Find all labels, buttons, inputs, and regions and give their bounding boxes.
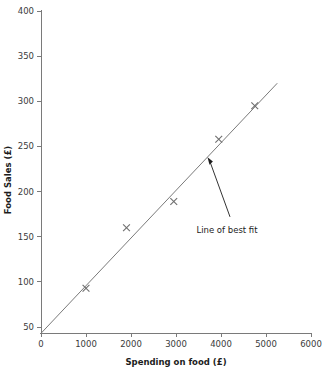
data-point-marker — [123, 224, 130, 231]
y-axis-tick-label: 350 — [18, 51, 34, 61]
x-axis-tick-label: 6000 — [300, 339, 322, 349]
annotation-leader-line — [210, 162, 230, 217]
trendline-path — [41, 83, 277, 333]
scatter-chart: 50100150200250300350400 0100020003000400… — [0, 0, 332, 372]
x-axis-tick-label: 3000 — [165, 339, 187, 349]
y-axis-tick-label: 150 — [18, 232, 34, 242]
x-axis-tick-label: 1000 — [75, 339, 97, 349]
data-point-marker — [215, 136, 222, 143]
data-point-marker — [251, 102, 258, 109]
x-axis-tick-label: 4000 — [210, 339, 232, 349]
y-axis-tick-label: 100 — [18, 277, 34, 287]
y-axis-title: Food Sales (£) — [3, 146, 13, 215]
y-axis-tick-label: 400 — [18, 6, 34, 16]
data-point-marker — [170, 198, 177, 205]
annotation-label: Line of best fit — [196, 225, 258, 235]
y-axis-tick-label: 50 — [23, 322, 34, 332]
line-of-best-fit — [41, 83, 277, 333]
y-axis-tick-label: 300 — [18, 96, 34, 106]
x-axis-tick-label: 0 — [38, 339, 43, 349]
annotation-arrowhead-icon — [208, 157, 213, 164]
annotation-line-of-best-fit: Line of best fit — [196, 157, 258, 235]
y-axis-tick-label: 250 — [18, 141, 34, 151]
x-axis: 0100020003000400050006000 — [38, 333, 322, 349]
y-axis-tick-label: 200 — [18, 187, 34, 197]
x-axis-tick-label: 2000 — [120, 339, 142, 349]
x-axis-title: Spending on food (£) — [125, 357, 226, 367]
x-axis-tick-label: 5000 — [255, 339, 277, 349]
y-axis: 50100150200250300350400 — [18, 6, 41, 333]
chart-canvas: 50100150200250300350400 0100020003000400… — [0, 0, 332, 372]
